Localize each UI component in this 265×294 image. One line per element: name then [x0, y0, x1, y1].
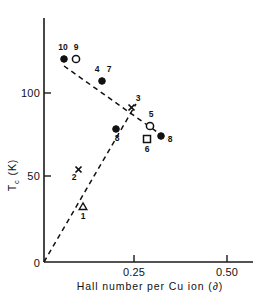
- y-axis-title-main: T: [6, 184, 18, 191]
- data-point-6-label: 6: [145, 144, 150, 154]
- trend-lines: [44, 66, 167, 262]
- y-axis-title: Tc (K): [6, 159, 21, 192]
- data-point-1-marker[interactable]: [79, 203, 87, 210]
- chart-canvas: 100 50 0 0.25 0.50 1 2 3: [0, 0, 265, 294]
- data-point-2-marker[interactable]: [76, 167, 82, 173]
- x-axis-title: Hall number per Cu ion (∂): [77, 280, 223, 292]
- data-point-8a-marker[interactable]: [113, 126, 120, 133]
- data-point-7-label: 7: [107, 64, 112, 74]
- svg-text:Tc (K): Tc (K): [6, 159, 21, 192]
- data-point-6-marker[interactable]: [144, 136, 151, 143]
- data-point-9-label: 9: [74, 42, 79, 52]
- data-point-8b-label: 8: [168, 134, 173, 144]
- x-tick-label-025: 0.25: [123, 266, 145, 278]
- data-point-1-label: 1: [81, 211, 86, 221]
- y-tick-label-100: 100: [21, 87, 40, 99]
- x-tick-label-050: 0.50: [216, 266, 238, 278]
- data-point-5-marker[interactable]: [146, 122, 153, 129]
- data-point-3-marker[interactable]: [129, 105, 135, 111]
- rising-dashed-trend-line: [44, 104, 136, 262]
- data-point-10-label: 10: [58, 42, 68, 52]
- data-point-3-label: 3: [136, 93, 141, 103]
- data-point-10-marker[interactable]: [61, 56, 68, 63]
- data-point-8a-label: 8: [115, 133, 120, 143]
- data-point-2-label: 2: [72, 172, 77, 182]
- x-axis-ticks: [134, 255, 227, 262]
- data-point-4-label: 4: [95, 64, 100, 74]
- hall-number-vs-tc-chart: 100 50 0 0.25 0.50 1 2 3: [0, 0, 265, 294]
- x-tick-labels: 0.25 0.50: [123, 266, 238, 278]
- y-tick-label-0: 0: [34, 257, 40, 269]
- data-point-5-label: 5: [149, 109, 154, 119]
- y-tick-labels: 100 50 0: [21, 87, 40, 269]
- y-tick-label-50: 50: [27, 170, 40, 182]
- data-point-9-marker[interactable]: [72, 55, 79, 62]
- data-point-8b-marker[interactable]: [158, 133, 165, 140]
- y-axis-ticks: [44, 93, 51, 176]
- data-point-4-marker[interactable]: [99, 78, 106, 85]
- y-axis-title-unit: (K): [6, 159, 18, 180]
